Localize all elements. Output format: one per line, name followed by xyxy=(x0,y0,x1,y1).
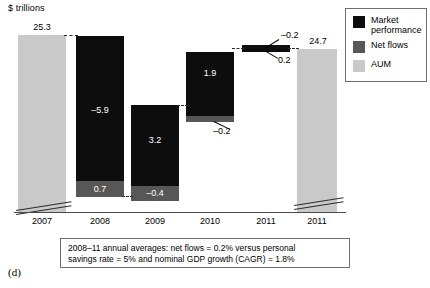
value-label-market-2008: –5.9 xyxy=(76,105,124,115)
value-label-market-2011: –0.2 xyxy=(281,30,299,40)
connector-2010-2011 xyxy=(232,48,244,49)
bar-netflows-2010 xyxy=(186,116,234,122)
y-axis-title: $ trillions xyxy=(8,3,45,13)
bar-aum-2011 xyxy=(297,49,337,212)
bar-market-2009 xyxy=(131,105,179,186)
legend-swatch-market-performance xyxy=(353,16,365,28)
x-axis-line xyxy=(14,212,346,213)
value-label-netflows-2009: –0.4 xyxy=(131,188,179,198)
x-tick-2011-flow: 2011 xyxy=(242,216,290,226)
chart-legend: Market performance Net flows AUM xyxy=(345,8,427,82)
connector-2011-aum xyxy=(288,48,299,49)
value-label-market-2010: 1.9 xyxy=(186,68,234,78)
waterfall-chart: $ trillions 25.3 –5.9 0.7 3.2 –0.4 1.9 –… xyxy=(0,0,430,288)
legend-label-aum: AUM xyxy=(371,59,391,69)
footnote-line-1: 2008–11 annual averages: net flows = 0.2… xyxy=(68,243,342,254)
legend-label-market-performance: Market performance xyxy=(371,15,426,35)
connector-2008-2009 xyxy=(122,196,133,197)
value-label-netflows-2011: 0.2 xyxy=(278,55,291,65)
value-label-aum-2007: 25.3 xyxy=(27,22,57,32)
connector-2007-2008 xyxy=(64,35,78,36)
value-label-market-2009: 3.2 xyxy=(131,135,179,145)
footnote-box: 2008–11 annual averages: net flows = 0.2… xyxy=(60,238,350,268)
bar-aum-2007 xyxy=(18,35,66,212)
legend-label-net-flows: Net flows xyxy=(371,40,408,50)
axis-break-2007 xyxy=(16,198,70,212)
leader-line-netflows-2011 xyxy=(266,51,279,59)
legend-swatch-net-flows xyxy=(353,41,365,53)
value-label-aum-2011: 24.7 xyxy=(302,36,334,46)
x-tick-2010: 2010 xyxy=(186,216,234,226)
x-tick-2009: 2009 xyxy=(131,216,179,226)
connector-2009-2010 xyxy=(177,105,188,106)
axis-break-2011 xyxy=(294,193,342,207)
legend-swatch-aum xyxy=(353,60,365,72)
x-tick-2007: 2007 xyxy=(18,216,66,226)
legend-item-net-flows: Net flows xyxy=(353,40,408,53)
value-label-netflows-2010: –0.2 xyxy=(213,126,231,136)
x-tick-2008: 2008 xyxy=(76,216,124,226)
value-label-netflows-2008: 0.7 xyxy=(76,184,124,194)
legend-item-market-performance: Market performance xyxy=(353,15,426,35)
x-tick-2011-aum: 2011 xyxy=(297,216,337,226)
legend-item-aum: AUM xyxy=(353,59,391,72)
panel-label: (d) xyxy=(8,266,21,278)
footnote-line-2: savings rate = 5% and nominal GDP growth… xyxy=(68,254,342,265)
bar-market-2010 xyxy=(186,52,234,116)
